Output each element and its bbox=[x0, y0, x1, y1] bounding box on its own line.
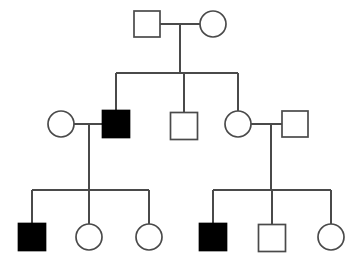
male-unaffected-symbol bbox=[282, 111, 308, 137]
female-unaffected-symbol bbox=[318, 224, 344, 250]
female-unaffected-symbol bbox=[136, 224, 162, 250]
individual-II-4 bbox=[225, 111, 251, 137]
individual-III-5 bbox=[259, 225, 286, 252]
female-unaffected-symbol bbox=[200, 11, 226, 37]
female-unaffected-symbol bbox=[225, 111, 251, 137]
individual-III-1 bbox=[19, 224, 46, 251]
male-unaffected-symbol bbox=[171, 113, 198, 140]
male-affected-symbol bbox=[19, 224, 46, 251]
individual-III-2 bbox=[76, 224, 102, 250]
male-affected-symbol bbox=[103, 111, 130, 138]
individual-III-4 bbox=[200, 224, 227, 251]
individual-II-5 bbox=[282, 111, 308, 137]
mating-group-2 bbox=[32, 124, 149, 224]
mating-group-3 bbox=[213, 124, 331, 225]
individual-II-2 bbox=[103, 111, 130, 138]
individual-I-1 bbox=[134, 11, 160, 37]
male-unaffected-symbol bbox=[259, 225, 286, 252]
female-unaffected-symbol bbox=[76, 224, 102, 250]
individual-III-3 bbox=[136, 224, 162, 250]
pedigree-chart bbox=[0, 0, 358, 263]
male-unaffected-symbol bbox=[134, 11, 160, 37]
individual-III-6 bbox=[318, 224, 344, 250]
individual-II-3 bbox=[171, 113, 198, 140]
individual-I-2 bbox=[200, 11, 226, 37]
female-unaffected-symbol bbox=[48, 111, 74, 137]
male-affected-symbol bbox=[200, 224, 227, 251]
individual-II-1 bbox=[48, 111, 74, 137]
pedigree-canvas bbox=[0, 0, 358, 263]
